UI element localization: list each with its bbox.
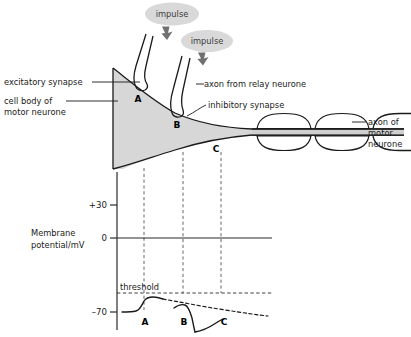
label-axon-from-relay: axon from relay neurone	[204, 79, 306, 89]
y-axis-title-line1: Membrane	[31, 228, 75, 238]
myelin-sheath-upper-1	[257, 114, 311, 129]
myelin-sheath-lower-1	[257, 136, 311, 151]
leader-inhibitory-synapse	[187, 105, 206, 116]
trace-point-label-c: C	[221, 317, 228, 327]
y-tick-label-zero: 0	[102, 233, 107, 243]
membrane-potential-trace: A B C	[122, 297, 268, 332]
inhibitory-axon-left-wall	[171, 56, 182, 113]
label-axon-of-line2: motor	[368, 128, 393, 138]
impulse-arrow-1-icon	[162, 27, 173, 41]
label-excitatory-synapse: excitatory synapse	[4, 77, 82, 87]
y-tick-label-minus70: –70	[92, 307, 107, 317]
threshold-group: threshold	[117, 282, 272, 293]
label-cell-body-line2: motor neurone	[4, 107, 66, 117]
presynaptic-axon-inhibitory	[171, 56, 190, 117]
figure-root: impulse impulse excitatory synapse cell …	[0, 0, 411, 337]
graph-axes: +30 0 –70 Membrane potential/mV	[31, 172, 272, 330]
label-axon-of-line3: neurone	[368, 139, 402, 149]
label-axon-from-relay-group: axon from relay neurone	[196, 79, 306, 89]
y-axis-title-line2: potential/mV	[31, 240, 85, 250]
trace-segment-decay-dashed	[163, 299, 268, 316]
inhibitory-axon-right-wall	[182, 58, 191, 110]
trace-point-label-a: A	[142, 317, 149, 327]
threshold-label: threshold	[120, 282, 159, 292]
label-cell-body-group: cell body of motor neurone	[4, 96, 118, 117]
excitatory-axon-left-wall	[134, 34, 146, 87]
impulse-bubble-2-label: impulse	[191, 36, 224, 46]
impulse-bubble-1-label: impulse	[156, 9, 189, 19]
label-inhibitory-synapse: inhibitory synapse	[208, 100, 284, 110]
y-tick-label-plus30: +30	[89, 200, 107, 210]
trace-segment-c	[195, 319, 223, 332]
label-axon-of-line1: axon of	[368, 117, 400, 127]
point-label-b-neurone: B	[174, 120, 181, 130]
synapse-diagram: impulse impulse excitatory synapse cell …	[0, 0, 411, 337]
point-label-a-neurone: A	[135, 94, 142, 104]
myelin-sheath-upper-2	[315, 114, 369, 129]
excitatory-axon-right-wall	[145, 36, 153, 84]
label-cell-body-line1: cell body of	[4, 96, 53, 106]
point-label-c-neurone: C	[213, 144, 220, 154]
impulse-arrow-2-icon	[198, 53, 209, 66]
label-inhibitory-synapse-group: inhibitory synapse	[187, 100, 284, 116]
trace-point-label-b: B	[181, 317, 188, 327]
impulse-bubble-2-group: impulse	[181, 30, 233, 66]
myelin-sheath-lower-2	[315, 136, 369, 151]
trace-segment-a	[122, 297, 163, 312]
